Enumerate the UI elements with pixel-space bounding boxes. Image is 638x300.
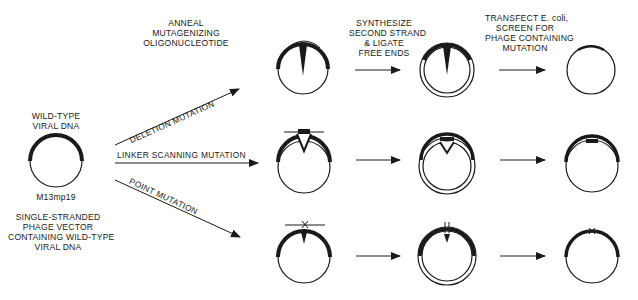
point-annealed-circle-icon [278,221,330,283]
wild-type-label: WILD-TYPE VIRAL DNA [26,111,86,131]
synthesize-line-4: FREE ENDS [349,48,419,58]
linker-double-strand-circle-icon [419,134,475,194]
synthesize-line-1: SYNTHESIZE [349,18,419,28]
anneal-line-2: MUTAGENIZING [143,28,229,38]
wild-type-circle-icon [30,135,82,187]
transfect-line-1: TRANSFECT E. coli, [485,13,565,23]
deletion-annealed-circle-icon [278,41,328,94]
point-mutant-circle-icon [566,228,618,283]
caption-line-3: CONTAINING WILD-TYPE [8,232,108,242]
point-double-strand-circle-icon [418,222,476,285]
mutagenesis-diagram: ANNEAL MUTAGENIZING OLIGONUCLEOTIDE SYNT… [0,0,638,300]
deletion-mutant-circle-icon [567,46,615,94]
linker-annealed-circle-icon [278,129,330,193]
deletion-double-strand-circle-icon [420,43,474,97]
linker-scanning-mutation-label: LINKER SCANNING MUTATION [117,150,246,160]
step-transfect-label: TRANSFECT E. coli, SCREEN FOR PHAGE CONT… [485,13,565,53]
wild-type-line-2: VIRAL DNA [26,121,86,131]
caption-line-2: PHAGE VECTOR [8,222,108,232]
linker-mutant-circle-icon [566,136,618,192]
transfect-line-3: PHAGE CONTAINING [485,33,565,43]
anneal-line-3: OLIGONUCLEOTIDE [143,38,229,48]
vector-name: M13mp19 [26,192,86,202]
start-caption: SINGLE-STRANDED PHAGE VECTOR CONTAINING … [8,212,108,252]
caption-line-4: VIRAL DNA [8,242,108,252]
caption-line-1: SINGLE-STRANDED [8,212,108,222]
transfect-line-2: SCREEN FOR [485,23,565,33]
step-synthesize-label: SYNTHESIZE SECOND STRAND & LIGATE FREE E… [349,18,419,58]
synthesize-line-2: SECOND STRAND [349,28,419,38]
step-anneal-label: ANNEAL MUTAGENIZING OLIGONUCLEOTIDE [143,18,229,48]
wild-type-line-1: WILD-TYPE [26,111,86,121]
anneal-line-1: ANNEAL [143,18,229,28]
transfect-line-4: MUTATION [485,43,565,53]
synthesize-line-3: & LIGATE [349,38,419,48]
